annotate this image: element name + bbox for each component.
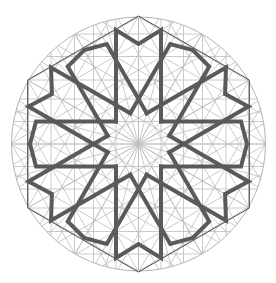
radial-spokes	[12, 17, 266, 271]
star-pattern-diagram	[0, 0, 276, 283]
